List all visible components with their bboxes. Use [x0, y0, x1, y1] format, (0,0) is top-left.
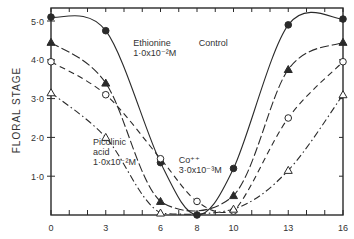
data-point-marker [339, 38, 347, 45]
x-tick-label: 16 [338, 223, 348, 233]
data-point-marker [194, 198, 201, 205]
data-point-marker [340, 58, 347, 65]
y-tick-label: 5·0 [31, 17, 44, 27]
y-tick-label: 3·0 [31, 94, 44, 104]
series-ethionine [47, 38, 347, 211]
data-point-marker [157, 155, 164, 162]
data-point-marker [47, 38, 55, 45]
series-control [48, 12, 347, 218]
data-point-marker [285, 22, 292, 29]
series-line [51, 42, 343, 211]
data-series [47, 12, 347, 218]
annotation-label: Picolinicacid1·0x10⁻²M [93, 137, 136, 167]
x-tick-label: 0 [48, 223, 53, 233]
annotation-label: Ethionine1·0x10⁻²M [133, 38, 176, 58]
x-tick-label: 3 [103, 223, 108, 233]
series-line [51, 12, 343, 215]
axis-ticks: 03681013161·02·03·04·05·0 [31, 8, 348, 233]
y-tick-label: 4·0 [31, 55, 44, 65]
data-point-marker [230, 165, 237, 172]
y-tick-label: 1·0 [31, 172, 44, 182]
x-tick-label: 8 [194, 223, 199, 233]
y-tick-label: 2·0 [31, 133, 44, 143]
data-point-marker [102, 27, 109, 34]
data-point-marker [102, 91, 109, 98]
data-point-marker [48, 14, 55, 21]
data-point-marker [285, 115, 292, 122]
plot-border [51, 8, 343, 215]
floral-stage-chart: 03681013161·02·03·04·05·0 Ethionine1·0x1… [0, 0, 354, 239]
x-tick-label: 6 [158, 223, 163, 233]
annotation-label: Co⁺⁺3·0x10⁻³M [179, 155, 222, 175]
x-tick-label: 13 [283, 223, 293, 233]
data-point-marker [157, 209, 165, 216]
plot-frame [51, 8, 343, 215]
x-tick-label: 10 [228, 223, 238, 233]
data-point-marker [340, 16, 347, 23]
data-point-marker [194, 212, 201, 219]
annotation-label: Control [199, 38, 228, 48]
annotations: Ethionine1·0x10⁻²MControlPicolinicacid1·… [93, 38, 228, 174]
data-point-marker [47, 89, 55, 96]
y-axis-label: FLORAL STAGE [11, 67, 22, 153]
data-point-marker [339, 91, 347, 98]
data-point-marker [48, 58, 55, 65]
